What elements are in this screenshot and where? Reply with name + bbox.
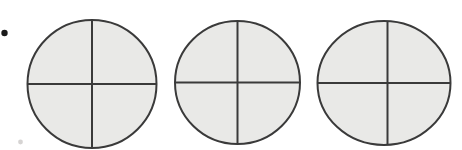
figure-canvas: Three circles each divided into four equ…: [0, 0, 462, 150]
circle-group-1: [28, 20, 157, 148]
circle-group-3: [318, 21, 451, 145]
fraction-circles-figure: [0, 0, 462, 150]
circle-group-2: [175, 21, 300, 144]
scan-dot-mark: [1, 30, 7, 36]
scan-speck-mark: [18, 140, 23, 145]
